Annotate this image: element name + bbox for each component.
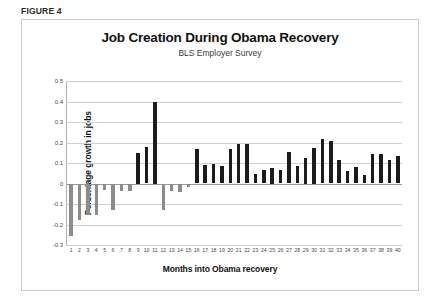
bar xyxy=(229,149,233,184)
bar xyxy=(363,175,367,183)
x-tick-label: 14 xyxy=(177,247,183,253)
bar xyxy=(237,144,241,184)
x-tick-label: 22 xyxy=(244,247,250,253)
bar xyxy=(128,184,132,191)
x-tick-label: 21 xyxy=(236,247,242,253)
x-tick-label: 4 xyxy=(95,247,98,253)
x-tick-label: 30 xyxy=(311,247,317,253)
bar xyxy=(287,152,291,184)
bar xyxy=(220,166,224,183)
x-tick-label: 19 xyxy=(219,247,225,253)
bar xyxy=(203,165,207,183)
bar xyxy=(145,147,149,184)
x-axis-title: Months into Obama recovery xyxy=(22,264,418,274)
x-tick-label: 6 xyxy=(112,247,115,253)
x-tick-label: 37 xyxy=(370,247,376,253)
x-tick-label: 8 xyxy=(128,247,131,253)
x-tick-label: 5 xyxy=(103,247,106,253)
bar xyxy=(396,156,400,184)
bar xyxy=(69,184,73,236)
bar xyxy=(86,184,90,216)
bar xyxy=(270,168,274,183)
bar xyxy=(111,184,115,211)
bar xyxy=(120,184,124,191)
x-tick-label: 7 xyxy=(120,247,123,253)
figure-label: FIGURE 4 xyxy=(21,6,62,16)
y-tick-label: 0.4 xyxy=(55,99,63,105)
bar xyxy=(346,171,350,183)
bar xyxy=(379,154,383,184)
bar xyxy=(136,153,140,184)
bar xyxy=(170,184,174,191)
chart-subtitle: BLS Employer Survey xyxy=(22,48,418,58)
x-tick-label: 16 xyxy=(194,247,200,253)
chart-title: Job Creation During Obama Recovery xyxy=(22,30,418,45)
bar xyxy=(103,184,107,190)
x-tick-label: 11 xyxy=(152,247,157,253)
bar xyxy=(279,170,283,183)
plot-wrapper: 0.50.40.30.20.10-0.1-0.2-0.3 12345678910… xyxy=(66,81,402,245)
y-tick-label: 0.2 xyxy=(55,140,63,146)
chart-title-block: Job Creation During Obama Recovery BLS E… xyxy=(22,30,418,58)
bar xyxy=(195,149,199,184)
figure-frame: Job Creation During Obama Recovery BLS E… xyxy=(21,19,419,291)
bar xyxy=(262,170,266,183)
x-tick-label: 35 xyxy=(353,247,359,253)
bar xyxy=(153,102,157,184)
x-tick-label: 24 xyxy=(261,247,267,253)
x-tick-label: 18 xyxy=(211,247,217,253)
bar xyxy=(354,167,358,183)
bar xyxy=(162,184,166,211)
x-tick-label: 32 xyxy=(328,247,334,253)
y-tick-label: 0.5 xyxy=(55,78,63,84)
bar xyxy=(178,184,182,192)
x-tick-label: 31 xyxy=(320,247,326,253)
x-tick-label: 1 xyxy=(70,247,73,253)
bar xyxy=(254,174,258,183)
x-tick-label: 38 xyxy=(378,247,384,253)
bar xyxy=(296,166,300,183)
x-tick-label: 33 xyxy=(336,247,342,253)
bar xyxy=(337,160,341,184)
x-tick-label: 10 xyxy=(144,247,150,253)
x-tick-label: 34 xyxy=(345,247,351,253)
bar xyxy=(371,154,375,184)
bar xyxy=(212,164,216,183)
y-tick-label: 0 xyxy=(60,181,63,187)
plot-area: 0.50.40.30.20.10-0.1-0.2-0.3 xyxy=(66,81,402,245)
x-tick-label: 40 xyxy=(395,247,401,253)
bars-group xyxy=(67,81,402,245)
y-tick-label: 0.1 xyxy=(55,160,63,166)
bar xyxy=(245,144,249,184)
x-tick-label: 15 xyxy=(186,247,192,253)
x-tick-label: 29 xyxy=(303,247,309,253)
y-tick-label: -0.1 xyxy=(53,201,63,207)
x-tick-label: 36 xyxy=(361,247,367,253)
bar xyxy=(388,160,392,184)
x-tick-label: 26 xyxy=(278,247,284,253)
bar xyxy=(95,184,99,216)
x-tick-label: 9 xyxy=(137,247,140,253)
figure-container: FIGURE 4 Job Creation During Obama Recov… xyxy=(0,0,440,308)
bar xyxy=(187,184,191,187)
bar xyxy=(312,148,316,184)
bar xyxy=(329,141,333,183)
x-tick-label: 2 xyxy=(78,247,81,253)
x-tick-label: 25 xyxy=(269,247,275,253)
x-tick-label: 17 xyxy=(202,247,208,253)
bar xyxy=(321,139,325,183)
y-tick-label: -0.2 xyxy=(53,222,63,228)
x-tick-labels-group: 1234567891011121314151617181920212223242… xyxy=(67,247,402,259)
x-tick-label: 28 xyxy=(294,247,300,253)
x-tick-label: 39 xyxy=(387,247,393,253)
x-tick-label: 12 xyxy=(160,247,166,253)
x-tick-label: 3 xyxy=(86,247,89,253)
y-tick-label: 0.3 xyxy=(55,119,63,125)
bar xyxy=(78,184,82,221)
y-tick-label: -0.3 xyxy=(53,242,63,248)
x-tick-label: 13 xyxy=(169,247,175,253)
x-tick-label: 23 xyxy=(253,247,259,253)
bar xyxy=(304,158,308,184)
x-tick-label: 20 xyxy=(227,247,233,253)
x-tick-label: 27 xyxy=(286,247,292,253)
